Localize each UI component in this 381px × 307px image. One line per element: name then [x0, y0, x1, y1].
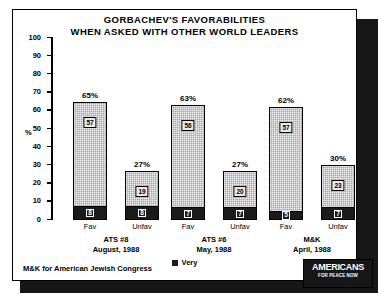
- bar-category-label: Unfav: [132, 222, 152, 231]
- bar-very-label: 7: [334, 210, 342, 219]
- y-tick-label: 50: [33, 123, 41, 132]
- bar-segment-very: 8: [73, 206, 107, 221]
- source-note: M&K for American Jewish Congress: [23, 264, 152, 273]
- y-tick: 20: [47, 182, 53, 184]
- bar-segment-very: 7: [223, 207, 257, 220]
- y-tick: 50: [47, 128, 53, 130]
- y-tick-label: 20: [33, 178, 41, 187]
- y-tick: 40: [47, 146, 53, 148]
- bar-very-label: 7: [236, 210, 244, 219]
- bar-category-label: Unfav: [328, 222, 348, 231]
- bar: 63%567Fav: [171, 105, 205, 220]
- logo-line-1: AMERICANS: [306, 262, 370, 272]
- y-tick-label: 100: [28, 32, 41, 41]
- bar-category-label: Unfav: [230, 222, 250, 231]
- group-caption: ATS #6 May, 1988: [197, 235, 232, 254]
- bar-very-label: 7: [184, 210, 192, 219]
- y-tick: 80: [47, 73, 53, 75]
- chart-title: GORBACHEV'S FAVORABILITIES WHEN ASKED WI…: [13, 14, 356, 37]
- group-caption: M&K April, 1988: [293, 235, 331, 254]
- bar: 62%575Fav: [269, 107, 303, 220]
- y-tick: 100: [47, 37, 53, 39]
- y-tick-label: 70: [33, 87, 41, 96]
- bar-somewhat-label: 23: [331, 180, 344, 191]
- y-axis-line: [51, 38, 53, 220]
- chart-panel: GORBACHEV'S FAVORABILITIES WHEN ASKED WI…: [12, 9, 357, 281]
- logo-line-2: FOR PEACE NOW: [306, 273, 370, 279]
- y-tick-label: 80: [33, 68, 41, 77]
- y-tick: 10: [47, 200, 53, 202]
- bar-very-label: 8: [138, 209, 146, 218]
- bar-category-label: Fav: [182, 222, 195, 231]
- bar-total-label: 63%: [180, 94, 196, 103]
- bar-somewhat-label: 57: [279, 122, 292, 133]
- legend-swatch-very: [172, 260, 178, 266]
- y-tick: 90: [47, 55, 53, 57]
- y-tick: 70: [47, 91, 53, 93]
- y-tick: 0: [47, 219, 53, 221]
- chart-screenshot: GORBACHEV'S FAVORABILITIES WHEN ASKED WI…: [0, 0, 381, 307]
- bar-somewhat-label: 56: [181, 120, 194, 131]
- y-tick-label: 40: [33, 141, 41, 150]
- bar: 65%578Fav: [73, 102, 107, 220]
- bar-somewhat-label: 20: [233, 186, 246, 197]
- y-tick: 60: [47, 109, 53, 111]
- bar-somewhat-label: 19: [135, 186, 148, 197]
- y-tick-label: 30: [33, 159, 41, 168]
- bar-segment-very: 7: [321, 207, 355, 220]
- y-tick-label: 10: [33, 196, 41, 205]
- y-tick-label: 90: [33, 50, 41, 59]
- legend-label-very: Very: [182, 258, 198, 267]
- bar-category-label: Fav: [280, 222, 293, 231]
- y-tick-label: 0: [37, 214, 41, 223]
- group-caption: ATS #8 August, 1988: [93, 235, 140, 254]
- bar: 30%237Unfav: [321, 165, 355, 220]
- bar-very-label: 5: [282, 211, 290, 220]
- organization-logo: AMERICANS FOR PEACE NOW: [303, 259, 373, 288]
- bar-somewhat-label: 57: [83, 117, 96, 128]
- bar-total-label: 62%: [278, 96, 294, 105]
- y-axis-label: %: [25, 128, 32, 137]
- bar: 27%207Unfav: [223, 171, 257, 220]
- bar-total-label: 27%: [134, 160, 150, 169]
- bar-total-label: 27%: [232, 160, 248, 169]
- bar: 27%198Unfav: [125, 171, 159, 220]
- bar-segment-very: 8: [125, 206, 159, 221]
- y-tick-label: 60: [33, 105, 41, 114]
- bar-very-label: 8: [86, 209, 94, 218]
- bar-segment-very: 7: [171, 207, 205, 220]
- bar-total-label: 65%: [82, 91, 98, 100]
- bar-segment-very: 5: [269, 211, 303, 220]
- bar-total-label: 30%: [330, 154, 346, 163]
- y-tick: 30: [47, 164, 53, 166]
- plot-area: 0102030405060708090100 65%578Fav27%198Un…: [51, 38, 341, 220]
- bar-category-label: Fav: [84, 222, 97, 231]
